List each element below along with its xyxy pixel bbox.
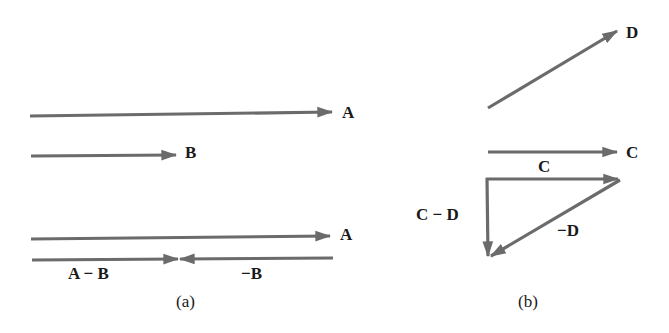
vector-c-label: C [626,143,638,162]
vector-d-label: D [626,23,638,42]
panel-b: D C C C − D −D (b) [416,23,638,311]
vector-b-label: B [185,143,196,162]
vector-b-arrow [31,155,176,156]
vector-neg-b-arrow [180,258,333,259]
caption-b: (b) [518,292,538,311]
vector-a-arrow [30,112,332,116]
vector-a-bottom-label: A [340,225,353,244]
vector-a-bottom-arrow [31,236,330,239]
vector-c-minus-d-label: C − D [416,205,459,224]
panel-a: A B A A − B −B (a) [30,103,355,311]
vector-c-minus-d-arrow [487,178,488,256]
vector-a-label: A [342,103,355,122]
triangle-c-label: C [538,157,550,176]
vector-subtraction-diagram: A B A A − B −B (a) D C C C − D −D (b) [0,0,669,333]
vector-neg-d-arrow [491,180,620,256]
vector-neg-b-label: −B [241,264,262,283]
vector-a-minus-b-label: A − B [68,264,109,283]
caption-a: (a) [176,292,195,311]
vector-a-minus-b-arrow [32,259,178,260]
vector-neg-d-label: −D [557,221,579,240]
vector-d-arrow [488,31,617,108]
